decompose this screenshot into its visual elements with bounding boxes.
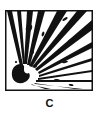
explosive-hazard-icon xyxy=(5,10,93,91)
explosive-hazard-symbol xyxy=(5,10,93,91)
symbol-label: C xyxy=(0,97,99,109)
